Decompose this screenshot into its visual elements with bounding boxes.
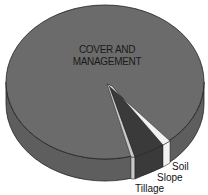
label-soil: Soil [172, 162, 189, 172]
tillage-side [131, 157, 135, 179]
label-cover-and-management: COVER AND MANAGEMENT [60, 44, 154, 68]
pie-top-cover-and-management [6, 5, 204, 159]
soil-side [163, 141, 170, 167]
label-line-2: MANAGEMENT [60, 56, 154, 68]
label-slope: Slope [157, 173, 183, 183]
label-tillage: Tillage [135, 184, 164, 194]
label-line-1: COVER AND [60, 44, 154, 56]
